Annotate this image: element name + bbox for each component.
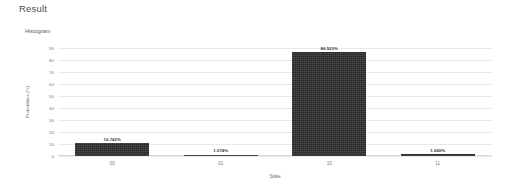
bar-group: 1.660%11	[384, 48, 493, 156]
y-axis-tick-label: 40	[49, 106, 54, 111]
y-axis-tick-label: 90	[49, 46, 54, 51]
y-axis-tick-label: 60	[49, 82, 54, 87]
y-axis-tick-label: 50	[49, 94, 54, 99]
bar-group: 1.074%01	[167, 48, 276, 156]
y-axis-tick-label: 30	[49, 118, 54, 123]
bar-value-label: 1.660%	[430, 148, 445, 153]
x-axis-tick-label: 11	[435, 161, 440, 166]
x-axis-title: State	[269, 174, 280, 179]
x-axis-tick-label: 01	[218, 161, 223, 166]
y-axis-tick-label: 0	[52, 154, 54, 159]
bar[interactable]: 10.742%	[75, 143, 149, 156]
bar[interactable]: 86.523%	[292, 52, 366, 156]
histogram-chart: Histogram Probabilities (%) 908070605040…	[0, 22, 515, 187]
y-axis-tick-label: 70	[49, 70, 54, 75]
bar-group: 86.523%10	[275, 48, 384, 156]
y-axis-tick-label: 80	[49, 58, 54, 63]
x-axis-tick-label: 00	[110, 161, 115, 166]
bar[interactable]: 1.660%	[401, 154, 475, 156]
bar-value-label: 10.742%	[104, 137, 121, 142]
x-axis-tick-label: 10	[327, 161, 332, 166]
y-axis-tick-label: 10	[49, 142, 54, 147]
gridline	[58, 156, 492, 157]
y-axis-title: Probabilities (%)	[25, 86, 30, 118]
bar-value-label: 86.523%	[321, 46, 338, 51]
result-panel: Result Histogram Probabilities (%) 90807…	[0, 0, 515, 187]
bar-group: 10.742%00	[58, 48, 167, 156]
y-axis-tick-label: 20	[49, 130, 54, 135]
chart-title: Histogram	[25, 28, 50, 34]
page-title: Result	[19, 3, 47, 14]
bar[interactable]: 1.074%	[184, 155, 258, 156]
bar-value-label: 1.074%	[213, 148, 228, 153]
plot-area: 9080706050403020100 10.742%001.074%0186.…	[58, 48, 492, 156]
